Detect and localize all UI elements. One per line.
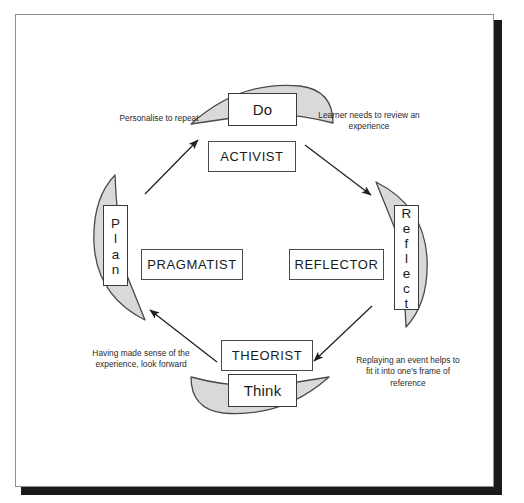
stage-label-plan: P l a n: [103, 205, 128, 286]
plan-letter-1: l: [114, 231, 117, 246]
arrow-do-to-reflect: [305, 145, 371, 195]
plan-letter-0: P: [111, 216, 120, 231]
reflect-letter-3: l: [405, 251, 408, 266]
stage-label-do: Do: [228, 93, 297, 126]
stage-label-reflect: R e f l e c t: [394, 205, 419, 310]
note-reflect-to-think: Replaying an event helps to fit it into …: [356, 355, 460, 389]
style-text-reflector: REFLECTOR: [295, 257, 379, 272]
style-box-activist: ACTIVIST: [208, 141, 296, 172]
note-text-think-to-plan: Having made sense of the experience, loo…: [92, 348, 189, 369]
stage-label-think: Think: [228, 374, 297, 407]
plan-letter-2: a: [112, 247, 120, 262]
reflect-letter-4: e: [403, 266, 411, 281]
reflect-letter-1: e: [403, 221, 411, 236]
stage-text-think: Think: [244, 382, 282, 399]
note-think-to-plan: Having made sense of the experience, loo…: [90, 348, 192, 371]
note-do-to-reflect: Learner needs to review an experience: [318, 110, 420, 133]
style-box-pragmatist: PRAGMATIST: [141, 249, 243, 280]
arrow-reflect-to-think: [314, 306, 372, 361]
reflect-letter-0: R: [402, 206, 412, 221]
diagram-canvas: Do R e f l e c t Think P l a n ACTIVIST …: [0, 0, 524, 503]
stage-text-do: Do: [253, 101, 273, 118]
style-box-theorist: THEORIST: [221, 340, 313, 371]
note-text-do-to-reflect: Learner needs to review an experience: [318, 110, 420, 131]
learning-cycle-diagram: Do R e f l e c t Think P l a n ACTIVIST …: [15, 14, 494, 487]
reflect-letter-5: c: [403, 281, 410, 296]
arrow-plan-to-do: [145, 140, 198, 194]
plan-letter-3: n: [112, 262, 120, 277]
style-text-activist: ACTIVIST: [220, 149, 283, 164]
note-text-plan-to-do: Personalise to repeat: [119, 113, 198, 123]
style-text-theorist: THEORIST: [232, 348, 303, 363]
note-plan-to-do: Personalise to repeat: [105, 113, 213, 124]
reflect-letter-6: t: [405, 296, 409, 311]
style-text-pragmatist: PRAGMATIST: [147, 257, 237, 272]
style-box-reflector: REFLECTOR: [289, 249, 384, 280]
note-text-reflect-to-think: Replaying an event helps to fit it into …: [356, 355, 459, 388]
cycle-shapes: [15, 14, 494, 487]
reflect-letter-2: f: [405, 236, 409, 251]
